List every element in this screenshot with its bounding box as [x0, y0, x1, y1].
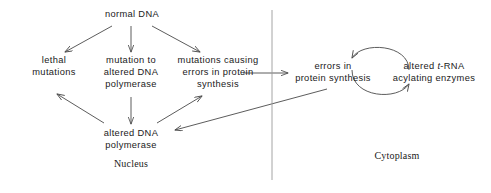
node-altered-polymerase-line-1: altered DNA: [85, 127, 177, 139]
arrow-altered-polymerase-to-lethal: [57, 94, 104, 123]
diagram-arrows-layer: [0, 0, 491, 193]
node-lethal-mutations: lethal mutations: [14, 54, 94, 78]
node-normal-dna-line-1: normal DNA: [96, 8, 168, 20]
node-altered-trna-acylating-enzymes: altered t-RNA acylating enzymes: [381, 60, 487, 84]
diagram-canvas: normal DNA lethal mutations mutation to …: [0, 0, 491, 193]
node-altered-dna-polymerase: altered DNA polymerase: [85, 127, 177, 151]
node-lethal-mutations-line-2: mutations: [14, 66, 94, 78]
node-trna-enzymes-line-2: acylating enzymes: [381, 72, 487, 84]
node-trna-enzymes-line-1-post: -RNA: [440, 61, 464, 71]
arrow-normaldna-to-lethal: [65, 26, 112, 52]
node-altered-polymerase-line-2: polymerase: [85, 139, 177, 151]
node-errors-in-protein-synthesis: errors in protein synthesis: [285, 60, 381, 84]
arrow-altered-polymerase-to-mutations-errors: [157, 96, 202, 123]
node-mutation-polymerase-line-3: polymerase: [89, 78, 173, 90]
compartment-label-cytoplasm: Cytoplasm: [352, 150, 442, 162]
node-mutations-causing-errors: mutations causing errors in protein synt…: [164, 54, 272, 91]
arrow-errors-protein-to-altered-polymerase: [175, 89, 327, 130]
node-mutation-to-altered-dna-polymerase: mutation to altered DNA polymerase: [89, 54, 173, 91]
node-mutations-errors-line-1: mutations causing: [164, 54, 272, 66]
node-trna-enzymes-line-1-pre: altered: [404, 61, 438, 71]
node-normal-dna: normal DNA: [96, 8, 168, 20]
node-errors-protein-line-2: protein synthesis: [285, 72, 381, 84]
compartment-label-nucleus: Nucleus: [90, 158, 172, 170]
node-mutations-errors-line-2: errors in protein: [164, 66, 272, 78]
arrow-normaldna-to-mutations-errors: [152, 26, 200, 52]
node-mutations-errors-line-3: synthesis: [164, 78, 272, 90]
node-errors-protein-line-1: errors in: [285, 60, 381, 72]
node-lethal-mutations-line-1: lethal: [14, 54, 94, 66]
node-trna-enzymes-line-1: altered t-RNA: [381, 60, 487, 72]
node-mutation-polymerase-line-2: altered DNA: [89, 66, 173, 78]
node-mutation-polymerase-line-1: mutation to: [89, 54, 173, 66]
